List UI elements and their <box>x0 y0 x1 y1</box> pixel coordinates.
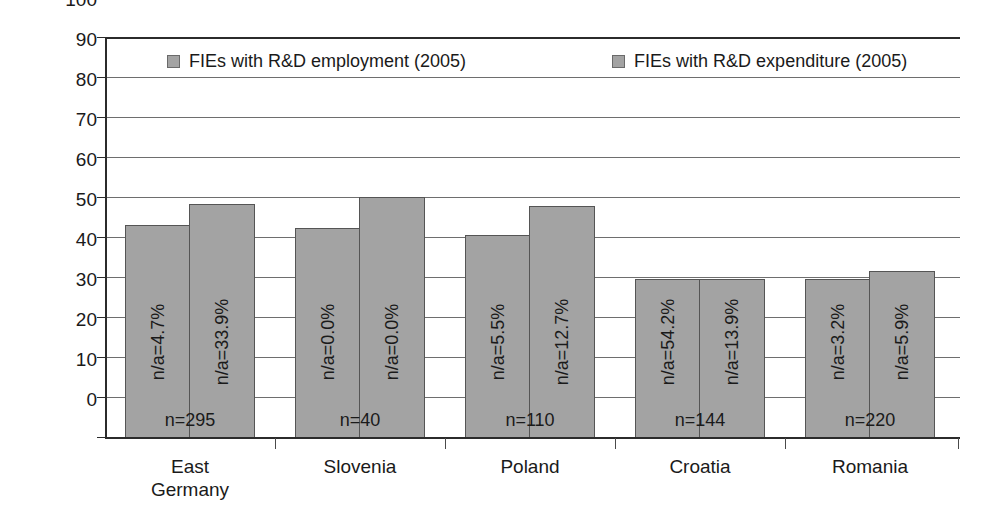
x-axis-label-slovenia: Slovenia <box>275 455 445 478</box>
y-tick-label: 100 <box>51 0 97 9</box>
category-separator <box>958 438 959 449</box>
bar-group-poland: n/a=5.5% n/a=12.7% n=110 <box>465 206 595 437</box>
x-axis-label-romania: Romania <box>785 455 955 478</box>
y-tick-label: 50 <box>51 190 97 209</box>
legend-item-employment[interactable]: FIEs with R&D employment (2005) <box>167 52 466 70</box>
x-axis-label-croatia: Croatia <box>615 455 785 478</box>
y-tick-label: 40 <box>51 230 97 249</box>
group-label-n: n=220 <box>805 411 935 429</box>
bar-label-percent: n/a=0.0% <box>383 304 401 381</box>
bars-layer: n/a=4.7% n/a=33.9% n=295 n/a=0.0% n/a=0.… <box>105 37 960 437</box>
legend-swatch-icon <box>612 55 625 68</box>
x-axis-label-line2: Germany <box>105 478 275 501</box>
legend-label: FIEs with R&D expenditure (2005) <box>634 52 907 70</box>
category-separator <box>445 438 446 449</box>
bar-label-percent: n/a=5.9% <box>893 304 911 381</box>
legend-label: FIEs with R&D employment (2005) <box>189 52 466 70</box>
y-tick-label: 60 <box>51 150 97 169</box>
bar-slovenia-expenditure[interactable]: n/a=0.0% <box>359 197 425 437</box>
group-label-n: n=144 <box>635 411 765 429</box>
bar-group-slovenia: n/a=0.0% n/a=0.0% n=40 <box>295 197 425 437</box>
y-tick-label: 70 <box>51 110 97 129</box>
y-tick-label: 10 <box>51 350 97 369</box>
x-axis-label-line1: Romania <box>785 455 955 478</box>
bar-slovenia-employment[interactable]: n/a=0.0% <box>295 228 360 437</box>
category-separator <box>785 438 786 449</box>
bar-label-percent: n/a=3.2% <box>829 304 847 381</box>
x-axis-label-line1: East <box>105 455 275 478</box>
bar-label-percent: n/a=13.9% <box>723 299 741 386</box>
bar-poland-employment[interactable]: n/a=5.5% <box>465 235 530 437</box>
bar-label-percent: n/a=0.0% <box>319 304 337 381</box>
bar-group-east-germany: n/a=4.7% n/a=33.9% n=295 <box>125 204 255 437</box>
y-tick-label: 90 <box>51 30 97 49</box>
bar-label-percent: n/a=33.9% <box>213 299 231 386</box>
y-axis: 100 90 80 70 60 50 40 30 20 10 0 <box>45 0 97 400</box>
bar-label-percent: n/a=54.2% <box>659 299 677 386</box>
y-tick-label: 30 <box>51 270 97 289</box>
legend-swatch-icon <box>167 55 180 68</box>
bar-label-percent: n/a=5.5% <box>489 304 507 381</box>
group-label-n: n=295 <box>125 411 255 429</box>
group-label-n: n=110 <box>465 411 595 429</box>
x-axis-label-line1: Slovenia <box>275 455 445 478</box>
bar-east-germany-employment[interactable]: n/a=4.7% <box>125 225 190 437</box>
legend-item-expenditure[interactable]: FIEs with R&D expenditure (2005) <box>612 52 907 70</box>
category-separator <box>275 438 276 449</box>
bar-east-germany-expenditure[interactable]: n/a=33.9% <box>189 204 255 437</box>
bar-group-romania: n/a=3.2% n/a=5.9% n=220 <box>805 271 935 437</box>
x-axis-line <box>105 437 960 439</box>
x-axis-label-poland: Poland <box>445 455 615 478</box>
x-axis-label-line1: Croatia <box>615 455 785 478</box>
group-label-n: n=40 <box>295 411 425 429</box>
category-separator <box>615 438 616 449</box>
x-axis-label-line1: Poland <box>445 455 615 478</box>
bar-chart: 100 90 80 70 60 50 40 30 20 10 0 <box>0 0 994 531</box>
y-tick-label: 0 <box>51 390 97 409</box>
bar-label-percent: n/a=12.7% <box>553 299 571 386</box>
chart-legend: FIEs with R&D employment (2005) FIEs wit… <box>105 46 960 76</box>
bar-poland-expenditure[interactable]: n/a=12.7% <box>529 206 595 437</box>
y-tick-label: 20 <box>51 310 97 329</box>
x-axis-label-east-germany: East Germany <box>105 455 275 501</box>
bar-label-percent: n/a=4.7% <box>149 304 167 381</box>
bar-group-croatia: n/a=54.2% n/a=13.9% n=144 <box>635 279 765 437</box>
y-tick-label: 80 <box>51 70 97 89</box>
